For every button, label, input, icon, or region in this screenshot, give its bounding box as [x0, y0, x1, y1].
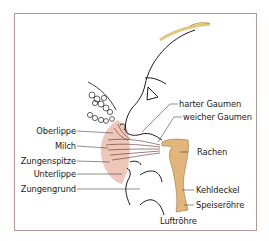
label-unterlippe: Unterlippe	[10, 169, 76, 179]
label-kehldeckel: Kehldeckel	[196, 185, 240, 195]
label-rachen: Rachen	[197, 147, 227, 157]
infant-hair	[160, 24, 210, 40]
pharynx-shape	[162, 139, 189, 212]
label-weicher-gaumen: weicher Gaumen	[183, 112, 252, 122]
label-luftroehre: Luftröhre	[160, 216, 197, 226]
label-speiseroehre: Speiseröhre	[196, 200, 244, 210]
label-zungengrund: Zungengrund	[10, 184, 76, 194]
label-oberlippe: Oberlippe	[20, 126, 76, 136]
label-milch: Milch	[20, 141, 76, 151]
milk-gland-lobules	[87, 92, 114, 123]
label-zungenspitze: Zungenspitze	[10, 156, 76, 166]
label-harter-gaumen: harter Gaumen	[179, 99, 241, 109]
